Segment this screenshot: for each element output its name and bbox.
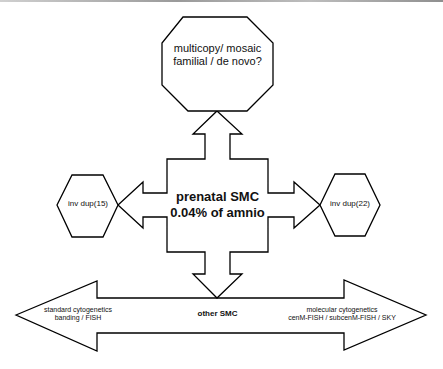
bottom-right-line1: molecular cytogenetics bbox=[272, 306, 412, 314]
bottom-right-line2: cenM-FISH / subcenM-FISH / SKY bbox=[272, 314, 412, 322]
center-label-line1: prenatal SMC bbox=[167, 189, 268, 205]
bottom-left-line2: banding / FISH bbox=[28, 314, 128, 322]
bottom-left-label: standard cytogenetics banding / FISH bbox=[28, 306, 128, 323]
center-label: prenatal SMC 0.04% of amnio bbox=[167, 189, 268, 222]
octagon-label: multicopy/ mosaic familial / de novo? bbox=[162, 42, 273, 68]
left-hexagon-label: inv dup(15) bbox=[58, 199, 118, 209]
bottom-right-label: molecular cytogenetics cenM-FISH / subce… bbox=[272, 306, 412, 323]
bottom-left-line1: standard cytogenetics bbox=[28, 306, 128, 314]
octagon-label-line1: multicopy/ mosaic bbox=[162, 42, 273, 55]
bottom-middle-label: other SMC bbox=[170, 309, 265, 319]
octagon-label-line2: familial / de novo? bbox=[162, 55, 273, 68]
center-label-line2: 0.04% of amnio bbox=[167, 205, 268, 221]
right-hexagon-label: inv dup(22) bbox=[320, 199, 380, 209]
